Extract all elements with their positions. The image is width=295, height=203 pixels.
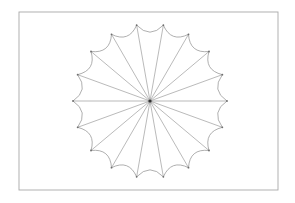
star-vertex bbox=[162, 176, 164, 178]
star-vertex bbox=[136, 24, 138, 26]
spoke-line bbox=[150, 52, 209, 101]
spoke-line bbox=[150, 75, 222, 101]
spoke-line bbox=[91, 101, 150, 150]
scallop-arc bbox=[189, 150, 209, 167]
scallop-arc bbox=[208, 52, 223, 75]
star-vertex bbox=[188, 33, 190, 35]
scallop-arc bbox=[189, 34, 209, 51]
scallop-arc bbox=[91, 150, 111, 167]
star-vertex bbox=[77, 126, 79, 128]
star-vertex bbox=[208, 150, 210, 152]
star-vertex bbox=[136, 176, 138, 178]
star-vertex bbox=[90, 150, 92, 152]
star-vertex bbox=[221, 74, 223, 76]
scallop-arc bbox=[73, 101, 82, 127]
scallop-arc bbox=[91, 34, 111, 51]
star-vertex bbox=[226, 100, 228, 102]
star-vertex bbox=[77, 74, 79, 76]
scallop-arc bbox=[137, 170, 164, 177]
star-vertex bbox=[72, 100, 74, 102]
star-vertex bbox=[221, 126, 223, 128]
star-diagram bbox=[0, 0, 295, 203]
spoke-line bbox=[150, 101, 209, 150]
scallop-arc bbox=[112, 25, 137, 37]
scallop-arc bbox=[163, 165, 188, 177]
star-vertex bbox=[111, 33, 113, 35]
scallop-arc bbox=[78, 52, 93, 75]
scallop-arc bbox=[208, 127, 223, 150]
star-vertex bbox=[188, 167, 190, 169]
scallop-arc bbox=[218, 75, 227, 101]
scallop-arc bbox=[163, 25, 188, 37]
star-vertex bbox=[208, 51, 210, 53]
spoke-line bbox=[78, 75, 150, 101]
scallop-arc bbox=[78, 127, 93, 150]
center-hub bbox=[148, 99, 151, 102]
star-vertex bbox=[111, 167, 113, 169]
spoke-line bbox=[150, 101, 222, 127]
star-vertex bbox=[162, 24, 164, 26]
scallop-arc bbox=[218, 101, 227, 127]
scallop-arc bbox=[137, 25, 164, 32]
scallop-arc bbox=[73, 75, 82, 101]
scallop-arc bbox=[112, 165, 137, 177]
spoke-line bbox=[78, 101, 150, 127]
star-vertex bbox=[90, 51, 92, 53]
spoke-line bbox=[91, 52, 150, 101]
